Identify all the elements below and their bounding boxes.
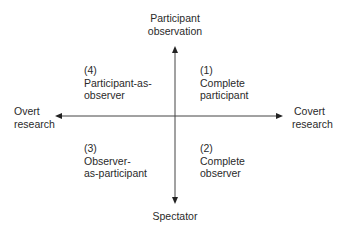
axis-label-right-line2: research	[292, 118, 332, 131]
quadrant-3-observer-as-participant: (3) Observer- as-participant	[84, 142, 147, 180]
quadrant-3-number: (3)	[84, 142, 147, 155]
axis-label-left-line1: Overt	[14, 105, 55, 118]
quadrant-3-line1: Observer-	[84, 155, 147, 168]
quadrant-1-number: (1)	[200, 64, 248, 77]
vertical-axis-arrow	[172, 46, 178, 204]
axis-label-left-line2: research	[14, 118, 55, 131]
quadrant-2-line2: observer	[200, 167, 245, 180]
quadrant-1-line2: participant	[200, 89, 248, 102]
participant-observation-typology-diagram: Participant observation Spectator Overt …	[0, 0, 344, 231]
quadrant-2-number: (2)	[200, 142, 245, 155]
axis-label-top: Participant observation	[145, 12, 205, 37]
horizontal-axis-arrow	[55, 113, 283, 119]
quadrant-4-line2: observer	[84, 89, 152, 102]
quadrant-4-participant-as-observer: (4) Participant-as- observer	[84, 64, 152, 102]
quadrant-2-line1: Complete	[200, 155, 245, 168]
axis-label-top-line2: observation	[145, 25, 205, 38]
quadrant-4-line1: Participant-as-	[84, 77, 152, 90]
axis-label-right-line1: Covert	[292, 105, 332, 118]
axis-label-bottom-line1: Spectator	[145, 210, 205, 223]
axis-label-top-line1: Participant	[145, 12, 205, 25]
axis-label-right: Covert research	[292, 105, 332, 130]
axis-label-left: Overt research	[14, 105, 55, 130]
axis-label-bottom: Spectator	[145, 210, 205, 223]
quadrant-4-number: (4)	[84, 64, 152, 77]
quadrant-1-line1: Complete	[200, 77, 248, 90]
quadrant-2-complete-observer: (2) Complete observer	[200, 142, 245, 180]
quadrant-1-complete-participant: (1) Complete participant	[200, 64, 248, 102]
quadrant-3-line2: as-participant	[84, 167, 147, 180]
